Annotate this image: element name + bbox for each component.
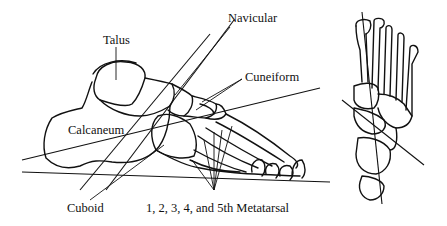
label-talus: Talus <box>103 34 130 47</box>
talus-bone <box>94 62 145 106</box>
label-navicular: Navicular <box>228 12 277 25</box>
cuneiform-leader-2 <box>196 79 242 110</box>
navicular-leader <box>175 27 230 95</box>
label-cuboid: Cuboid <box>67 202 104 215</box>
label-metatarsal: 1, 2, 3, 4, and 5th Metatarsal <box>146 202 289 215</box>
talar-axis-line-1 <box>80 34 210 190</box>
label-cuneiform: Cuneiform <box>245 71 299 84</box>
foot-drawing <box>0 0 447 226</box>
cuboid-leader <box>90 145 164 200</box>
label-calcaneum: Calcaneum <box>68 124 124 137</box>
foot-bones-diagram: Talus Navicular Cuneiform Calcaneum Cubo… <box>0 0 447 226</box>
cuneiform-leader-1 <box>202 79 242 102</box>
ground-line <box>22 172 330 182</box>
dorsal-view-foot <box>354 18 418 200</box>
calcaneal-axis-line <box>22 88 320 160</box>
